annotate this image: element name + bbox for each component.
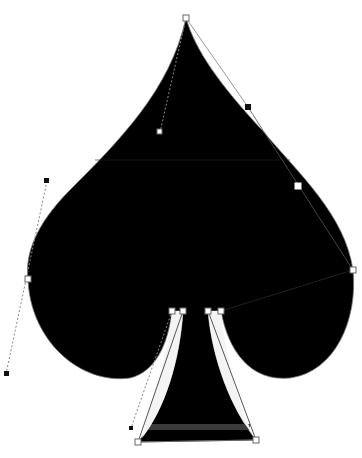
anchor-left[interactable] [25,276,31,282]
control-left-up[interactable] [44,178,49,183]
control-right-in[interactable] [295,183,301,189]
spade-shape[interactable] [27,18,353,442]
control-base-left[interactable] [129,426,133,430]
anchor-right[interactable] [350,267,356,273]
anchor-base-left[interactable] [135,439,141,445]
vector-canvas[interactable] [0,0,362,458]
control-top-out[interactable] [245,104,251,110]
anchor-stem-right-outer[interactable] [218,308,224,314]
control-left-down[interactable] [4,371,9,376]
control-top-in[interactable] [157,129,162,134]
anchor-stem-left-inner[interactable] [180,308,186,314]
anchor-top[interactable] [183,15,189,21]
anchor-stem-right-inner[interactable] [205,308,211,314]
anchor-stem-left-outer[interactable] [169,308,175,314]
anchor-base-right[interactable] [253,437,259,443]
base-band [145,424,250,430]
